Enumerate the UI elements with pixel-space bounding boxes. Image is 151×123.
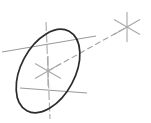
center-star-marker [35, 56, 61, 86]
minor-axis-centerline [20, 88, 87, 93]
major-axis-centerline [2, 36, 96, 52]
drawing-canvas [0, 0, 151, 123]
isometric-circle-drawing [0, 0, 151, 123]
axis-point-star-marker [114, 12, 140, 42]
